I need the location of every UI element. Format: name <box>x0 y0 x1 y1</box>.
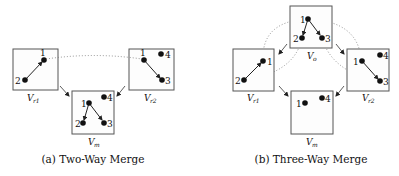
view-vr1: 1 2 V r1 <box>233 49 274 104</box>
node-1 <box>305 16 311 22</box>
derive-arrow <box>279 44 287 54</box>
view-label-sub: r1 <box>253 97 260 104</box>
caption-two-way-merge: (a) Two-Way Merge <box>41 153 144 165</box>
node-1 <box>302 100 308 106</box>
node-3 <box>159 77 165 83</box>
view-label-sub: r2 <box>368 97 375 104</box>
correspondence-dotted-line <box>46 56 142 60</box>
panel-two-way-merge: 1 2 V r1 1 3 4 V r2 <box>13 48 174 165</box>
view-label-sub: r2 <box>150 97 157 104</box>
node-label: 1 <box>140 48 146 58</box>
node-label: 4 <box>107 93 113 103</box>
derive-arrow <box>336 44 344 54</box>
node-label: 1 <box>81 99 87 109</box>
view-label-sub: m <box>94 141 100 148</box>
node-label: 1 <box>267 57 273 67</box>
view-vr2: 1 3 4 V r2 <box>347 49 389 104</box>
node-label: 3 <box>165 76 171 86</box>
view-vm: 1 2 3 4 V m <box>72 91 114 148</box>
node-1 <box>260 58 266 64</box>
node-4 <box>158 51 164 57</box>
node-2 <box>22 77 28 83</box>
view-vo: 1 2 3 V o <box>290 6 332 62</box>
node-label: 3 <box>383 77 389 87</box>
node-label: 4 <box>325 94 331 104</box>
merge-arrow <box>60 86 69 96</box>
node-1 <box>141 57 147 63</box>
merge-diagram: 1 2 V r1 1 3 4 V r2 <box>0 0 399 176</box>
panel-three-way-merge: 1 2 3 V o 1 2 V r1 1 3 <box>233 6 389 165</box>
node-4 <box>319 95 325 101</box>
node-3 <box>319 35 325 41</box>
node-4 <box>377 52 383 58</box>
view-label-sub: m <box>312 141 318 148</box>
node-label: 2 <box>15 76 21 86</box>
node-1 <box>359 58 365 64</box>
node-label: 1 <box>300 15 306 25</box>
view-label-sub: r1 <box>33 97 40 104</box>
merge-arrow <box>117 86 125 96</box>
merge-arrow <box>279 86 288 96</box>
node-3 <box>101 120 107 126</box>
node-1 <box>86 100 92 106</box>
node-label: 2 <box>293 34 299 44</box>
node-label: 4 <box>383 51 389 61</box>
node-label: 1 <box>353 57 359 67</box>
caption-three-way-merge: (b) Three-Way Merge <box>255 153 368 165</box>
node-4 <box>101 94 107 100</box>
node-3 <box>377 78 383 84</box>
view-label-sub: o <box>313 55 317 62</box>
merge-arrow <box>336 86 344 96</box>
view-vr1: 1 2 V r1 <box>13 48 58 104</box>
node-label: 3 <box>107 119 113 129</box>
node-label: 2 <box>235 76 241 86</box>
node-label: 1 <box>40 48 46 58</box>
node-label: 4 <box>165 50 171 60</box>
node-2 <box>299 35 305 41</box>
view-vr2: 1 3 4 V r2 <box>129 48 174 104</box>
node-label: 2 <box>75 119 81 129</box>
node-label: 1 <box>296 99 302 109</box>
node-2 <box>241 77 247 83</box>
node-1 <box>41 57 47 63</box>
node-label: 3 <box>325 34 331 44</box>
view-vm: 1 4 V m <box>291 91 333 148</box>
node-2 <box>80 120 86 126</box>
